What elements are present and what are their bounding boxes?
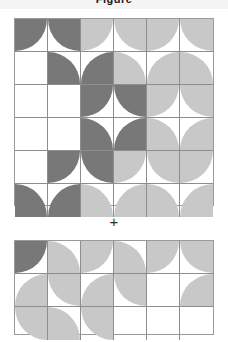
pattern-cell — [114, 307, 147, 340]
quarter-circle-arc — [48, 241, 80, 273]
pattern-cell — [81, 52, 114, 85]
quarter-circle-arc — [180, 118, 213, 150]
quarter-circle-arc — [180, 19, 213, 51]
bottom-pattern-grid-wrapper — [14, 240, 214, 335]
quarter-circle-arc — [15, 184, 47, 217]
pattern-cell — [180, 151, 213, 184]
top-pattern-grid-wrapper — [14, 18, 214, 206]
pattern-cell — [180, 184, 213, 217]
top-pattern-grid — [14, 18, 214, 206]
pattern-cell — [15, 241, 48, 274]
quarter-circle-arc — [114, 241, 146, 273]
quarter-circle-arc — [81, 85, 113, 117]
pattern-cell — [147, 274, 180, 307]
quarter-circle-arc — [15, 307, 47, 340]
quarter-circle-arc — [147, 241, 179, 273]
quarter-circle-arc — [180, 184, 213, 217]
pattern-cell — [114, 85, 147, 118]
pattern-cell — [180, 85, 213, 118]
quarter-circle-arc — [81, 307, 113, 340]
pattern-cell — [114, 52, 147, 85]
quarter-circle-arc — [81, 19, 113, 51]
pattern-cell — [147, 307, 180, 340]
quarter-circle-arc — [147, 184, 179, 217]
pattern-cell — [48, 274, 81, 307]
header-title-partial: Figure — [0, 0, 228, 5]
pattern-cell — [114, 151, 147, 184]
pattern-cell — [147, 151, 180, 184]
quarter-circle-arc — [48, 274, 80, 306]
pattern-cell — [81, 151, 114, 184]
pattern-cell — [114, 274, 147, 307]
quarter-circle-arc — [147, 52, 179, 84]
pattern-cell — [81, 274, 114, 307]
pattern-cell — [147, 118, 180, 151]
pattern-cell — [48, 184, 81, 217]
pattern-cell — [15, 52, 48, 85]
quarter-circle-arc — [15, 241, 47, 273]
pattern-cell — [48, 118, 81, 151]
quarter-circle-arc — [114, 85, 146, 117]
quarter-circle-arc — [180, 241, 213, 273]
quarter-circle-arc — [147, 19, 179, 51]
pattern-cell — [48, 85, 81, 118]
bottom-pattern-grid — [14, 240, 214, 335]
quarter-circle-arc — [114, 274, 146, 306]
quarter-circle-arc — [147, 85, 179, 117]
pattern-cell — [180, 307, 213, 340]
pattern-cell — [114, 184, 147, 217]
pattern-cell — [81, 85, 114, 118]
pattern-cell — [15, 151, 48, 184]
quarter-circle-arc — [180, 85, 213, 117]
pattern-cell — [15, 184, 48, 217]
page-canvas: Figure + — [0, 0, 228, 342]
pattern-cell — [147, 184, 180, 217]
pattern-cell — [81, 118, 114, 151]
quarter-circle-arc — [48, 151, 80, 183]
quarter-circle-arc — [81, 151, 113, 183]
quarter-circle-arc — [15, 274, 47, 306]
pattern-cell — [48, 52, 81, 85]
quarter-circle-arc — [180, 151, 213, 183]
pattern-cell — [147, 52, 180, 85]
pattern-cell — [147, 241, 180, 274]
pattern-cell — [15, 118, 48, 151]
pattern-cell — [15, 274, 48, 307]
pattern-cell — [48, 151, 81, 184]
quarter-circle-arc — [114, 52, 146, 84]
quarter-circle-arc — [48, 52, 80, 84]
quarter-circle-arc — [81, 241, 113, 273]
pattern-cell — [147, 85, 180, 118]
quarter-circle-arc — [81, 274, 113, 306]
pattern-cell — [180, 241, 213, 274]
pattern-cell — [180, 274, 213, 307]
header-strip: Figure — [0, 0, 228, 9]
quarter-circle-arc — [114, 184, 146, 217]
quarter-circle-arc — [48, 19, 80, 51]
quarter-circle-arc — [81, 118, 113, 150]
quarter-circle-arc — [114, 19, 146, 51]
quarter-circle-arc — [81, 52, 113, 84]
quarter-circle-arc — [15, 19, 47, 51]
quarter-circle-arc — [147, 118, 179, 150]
quarter-circle-arc — [114, 151, 146, 183]
pattern-cell — [147, 19, 180, 52]
pattern-cell — [114, 19, 147, 52]
quarter-circle-arc — [48, 184, 80, 217]
pattern-cell — [81, 241, 114, 274]
pattern-cell — [48, 307, 81, 340]
pattern-cell — [180, 52, 213, 85]
quarter-circle-arc — [81, 184, 113, 217]
pattern-cell — [114, 241, 147, 274]
pattern-cell — [15, 307, 48, 340]
quarter-circle-arc — [180, 52, 213, 84]
quarter-circle-arc — [48, 307, 80, 340]
quarter-circle-arc — [147, 151, 179, 183]
pattern-cell — [114, 118, 147, 151]
pattern-cell — [15, 85, 48, 118]
pattern-cell — [180, 19, 213, 52]
pattern-cell — [81, 307, 114, 340]
pattern-cell — [180, 118, 213, 151]
pattern-cell — [48, 19, 81, 52]
quarter-circle-arc — [114, 118, 146, 150]
